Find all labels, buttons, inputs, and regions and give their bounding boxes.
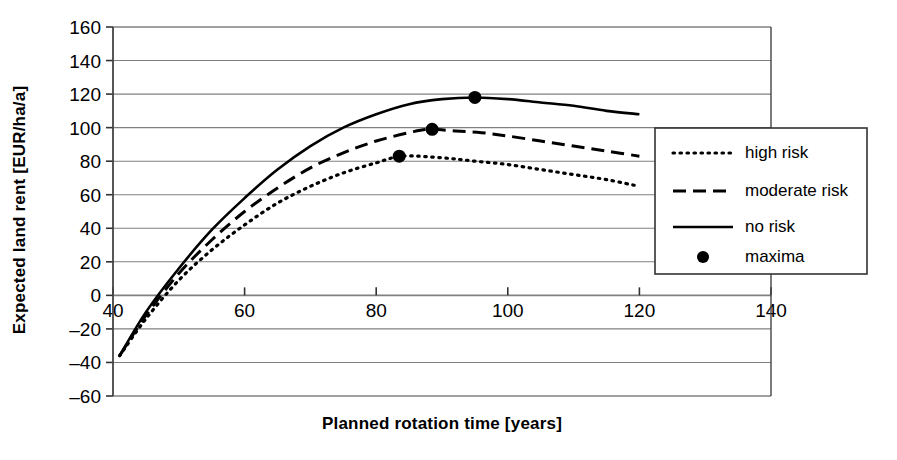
x-tick-label-100: 100 <box>492 300 524 321</box>
y-tick-group: –60–40–20020406080100120140160 <box>69 17 113 407</box>
chart-plot-area: –60–40–20020406080100120140160 406080100… <box>0 0 897 460</box>
legend-label-moderate-risk: moderate risk <box>745 181 848 200</box>
series-line-moderate-risk <box>120 129 640 355</box>
y-tick-label-80: 80 <box>80 151 101 172</box>
y-tick-label--60: –60 <box>69 386 101 407</box>
y-tick-label-20: 20 <box>80 252 101 273</box>
x-tick-group: 406080100120140 <box>102 287 786 321</box>
y-tick-label--40: –40 <box>69 352 101 373</box>
legend-marker-maxima <box>697 251 709 263</box>
maxima-marker-high-risk <box>393 150 406 163</box>
y-tick-label-0: 0 <box>90 285 101 306</box>
maxima-markers-group <box>393 91 482 163</box>
y-tick-label-40: 40 <box>80 218 101 239</box>
legend-label-maxima: maxima <box>745 247 805 266</box>
y-tick-label-120: 120 <box>69 84 101 105</box>
y-tick-label-60: 60 <box>80 185 101 206</box>
y-tick-label-100: 100 <box>69 118 101 139</box>
legend-label-high-risk: high risk <box>745 143 809 162</box>
maxima-marker-no-risk <box>468 91 481 104</box>
y-tick-label--20: –20 <box>69 319 101 340</box>
x-tick-label-120: 120 <box>624 300 656 321</box>
chart-figure: Expected land rent [EUR/ha/a] Planned ro… <box>0 0 897 460</box>
legend-box: high riskmoderate riskno riskmaxima <box>655 128 867 274</box>
x-tick-label-80: 80 <box>366 300 387 321</box>
y-tick-label-160: 160 <box>69 17 101 38</box>
legend-label-no-risk: no risk <box>745 217 796 236</box>
maxima-marker-moderate-risk <box>426 123 439 136</box>
series-line-high-risk <box>120 156 640 356</box>
y-tick-label-140: 140 <box>69 51 101 72</box>
x-tick-label-60: 60 <box>234 300 255 321</box>
